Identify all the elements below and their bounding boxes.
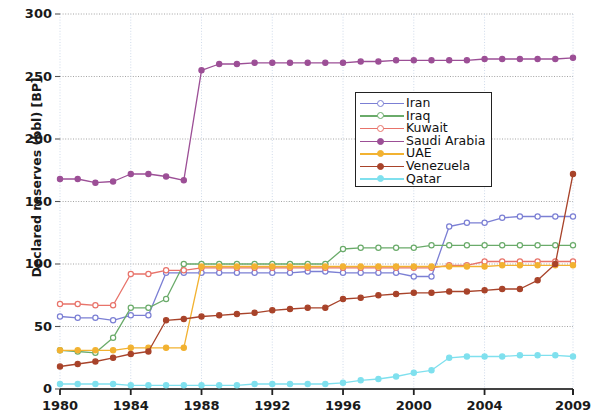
data-point: [181, 316, 186, 321]
data-point: [93, 303, 98, 308]
legend-item-qatar[interactable]: Qatar: [360, 173, 491, 186]
data-point: [111, 381, 116, 386]
x-tick-label: 1980: [30, 398, 90, 413]
data-point: [111, 355, 116, 360]
data-point: [111, 348, 116, 353]
data-point: [217, 264, 222, 269]
data-point: [553, 243, 558, 248]
data-point: [164, 345, 169, 350]
series-line-saudi-arabia: [60, 58, 573, 183]
data-point: [164, 383, 169, 388]
legend-label: Qatar: [404, 173, 441, 186]
x-tick-label: 1984: [101, 398, 161, 413]
data-point: [75, 348, 80, 353]
data-point: [464, 243, 469, 248]
data-point: [429, 58, 434, 63]
data-point: [464, 58, 469, 63]
data-point: [376, 293, 381, 298]
data-point: [358, 295, 363, 300]
data-point: [234, 61, 239, 66]
legend-marker-icon: [377, 100, 384, 107]
data-point: [93, 359, 98, 364]
data-point: [146, 305, 151, 310]
data-point: [376, 245, 381, 250]
data-point: [199, 383, 204, 388]
data-point: [464, 220, 469, 225]
data-point: [323, 264, 328, 269]
x-tick-label: 2009: [543, 398, 595, 413]
legend-swatch-icon: [360, 122, 404, 134]
data-point: [447, 264, 452, 269]
legend-marker-icon: [377, 112, 384, 119]
data-point: [553, 56, 558, 61]
data-point: [93, 381, 98, 386]
data-point: [358, 59, 363, 64]
y-tick-label: 200: [6, 131, 52, 146]
data-point: [447, 58, 452, 63]
data-point: [217, 61, 222, 66]
data-point: [429, 243, 434, 248]
data-point: [146, 349, 151, 354]
data-point: [234, 383, 239, 388]
data-point: [429, 368, 434, 373]
data-point: [57, 176, 62, 181]
data-point: [358, 378, 363, 383]
y-tick-label: 150: [6, 194, 52, 209]
data-point: [93, 348, 98, 353]
data-point: [75, 361, 80, 366]
legend-marker-icon: [377, 138, 384, 145]
data-point: [570, 55, 575, 60]
data-point: [305, 264, 310, 269]
data-point: [535, 263, 540, 268]
data-point: [411, 370, 416, 375]
data-point: [111, 303, 116, 308]
legend-swatch-icon: [360, 110, 404, 122]
data-point: [500, 56, 505, 61]
data-point: [340, 296, 345, 301]
x-tick-label: 1992: [242, 398, 302, 413]
legend-swatch-icon: [360, 160, 404, 172]
data-point: [270, 60, 275, 65]
data-point: [447, 289, 452, 294]
series-line-kuwait: [60, 262, 573, 306]
data-point: [93, 180, 98, 185]
data-point: [323, 381, 328, 386]
y-tick-label: 0: [6, 381, 52, 396]
data-point: [340, 60, 345, 65]
data-point: [553, 353, 558, 358]
data-point: [429, 290, 434, 295]
data-point: [535, 214, 540, 219]
data-point: [500, 286, 505, 291]
series-line-venezuela: [60, 174, 573, 367]
legend-marker-icon: [377, 125, 384, 132]
data-point: [340, 380, 345, 385]
data-point: [57, 381, 62, 386]
data-point: [217, 383, 222, 388]
data-point: [75, 176, 80, 181]
data-point: [517, 214, 522, 219]
data-point: [287, 306, 292, 311]
data-point: [181, 261, 186, 266]
data-point: [181, 268, 186, 273]
data-point: [535, 353, 540, 358]
data-point: [376, 59, 381, 64]
data-point: [570, 214, 575, 219]
data-point: [500, 263, 505, 268]
data-point: [500, 243, 505, 248]
data-point: [376, 376, 381, 381]
data-point: [570, 354, 575, 359]
data-point: [111, 179, 116, 184]
data-point: [181, 383, 186, 388]
data-point: [252, 310, 257, 315]
data-point: [270, 308, 275, 313]
data-point: [146, 271, 151, 276]
data-point: [394, 374, 399, 379]
data-point: [482, 288, 487, 293]
data-point: [181, 345, 186, 350]
data-point: [464, 289, 469, 294]
data-point: [517, 353, 522, 358]
legend-marker-icon: [377, 175, 384, 182]
data-point: [287, 60, 292, 65]
data-point: [199, 264, 204, 269]
